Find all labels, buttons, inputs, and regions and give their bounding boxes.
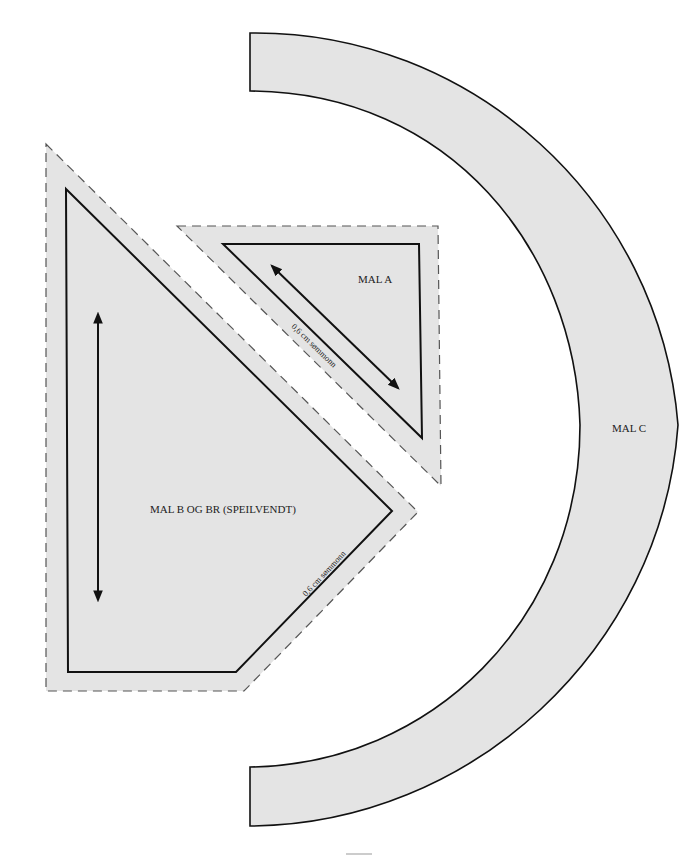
mal-c-label: MAL C — [612, 422, 646, 434]
mal-a-label: MAL A — [358, 273, 392, 285]
mal-b-label: MAL B OG BR (SPEILVENDT) — [150, 503, 296, 516]
pattern-sheet: MAL C MAL B OG BR (SPEILVENDT) 0,6 cm sø… — [0, 0, 694, 860]
